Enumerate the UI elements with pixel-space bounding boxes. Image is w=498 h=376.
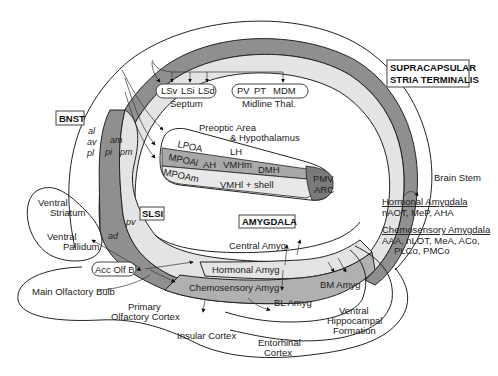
supracapsular-label-2: STRIA TERMINALIS <box>390 74 479 85</box>
bnst-pi: pi <box>104 147 113 157</box>
hyp-lh: LH <box>230 146 242 157</box>
entorhinal-2: Cortex <box>264 347 292 358</box>
septum-lsd: LSd <box>198 85 215 96</box>
main-olfactory-bulb-label: Main Olfactory Bulb <box>32 286 115 297</box>
stria-terminalis-diagram: BNST SUPRACAPSULAR STRIA TERMINALIS SLSI… <box>0 0 498 376</box>
bnst-am: am <box>110 135 123 145</box>
septum-label: Septum <box>170 98 203 109</box>
hypothalamus-title-2: & Hypothalamus <box>230 132 300 143</box>
vhf-3: Formation <box>333 325 376 336</box>
brain-stem-label: Brain Stem <box>434 172 481 183</box>
amyg-bl: BL Amyg <box>274 297 312 308</box>
supracapsular-label-1: SUPRACAPSULAR <box>390 62 476 73</box>
midline-thal-label: Midline Thal. <box>242 98 296 109</box>
hyp-pmv: PMV <box>313 173 334 184</box>
amyg-hormonal: Hormonal Amyg <box>212 264 280 275</box>
hyp-arc: ARC <box>314 184 334 195</box>
legend-chemo-title: Chemosensory Amygdala <box>382 224 491 235</box>
insular-cortex-label: Insular Cortex <box>177 330 236 341</box>
bnst-pl: pl <box>86 148 95 158</box>
thal-pt: PT <box>254 85 266 96</box>
amyg-central: Central Amyg <box>229 240 286 251</box>
amygdala-label: AMYGDALA <box>242 216 297 227</box>
septum-lsi: LSi <box>181 85 195 96</box>
ventral-pallidum-2: Pallidum <box>63 241 100 252</box>
hyp-dmh: DMH <box>258 164 280 175</box>
bnst-av: av <box>87 137 97 147</box>
acc-olf-b-label: Acc Olf B <box>95 264 135 275</box>
hyp-ah: AH <box>203 159 216 170</box>
ventral-striatum-2: Striatum <box>50 207 85 218</box>
bnst-pv: pv <box>125 217 136 227</box>
bnst-al: al <box>88 126 96 136</box>
hyp-vmhl: VMHl + shell <box>220 179 274 190</box>
slsi-label: SLSI <box>142 208 163 219</box>
thal-mdm: MDM <box>273 85 296 96</box>
legend-hormonal-items: nAOT, MeP, AHA <box>382 207 454 218</box>
legend-chemo-items-2: PLCo, PMCo <box>394 245 449 256</box>
amyg-chemosensory: Chemosensory Amyg <box>189 282 279 293</box>
bnst-pm: pm <box>119 147 133 157</box>
amyg-bm: BM Amyg <box>320 279 361 290</box>
septum-lsv: LSv <box>161 85 178 96</box>
legend-hormonal-title: Hormonal Amygdala <box>382 196 468 207</box>
bnst-ad: ad <box>108 231 119 241</box>
primary-olf-2: Olfactory Cortex <box>111 311 180 322</box>
thal-pv: PV <box>237 85 250 96</box>
bnst-label: BNST <box>59 113 85 124</box>
hyp-vmhm: VMHm <box>223 159 252 170</box>
